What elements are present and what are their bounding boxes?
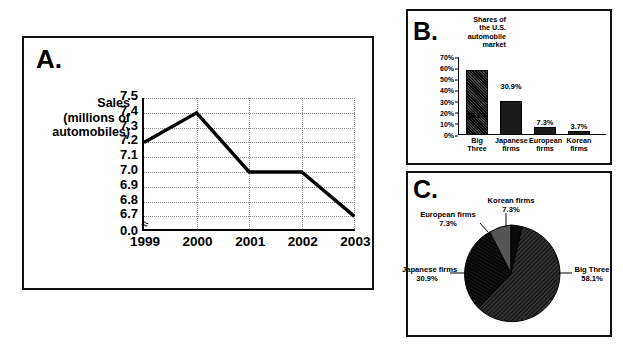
pie-label-pct: 30.9%: [402, 274, 452, 283]
y-tick-label: 7.2: [120, 134, 138, 146]
bar-value-label: 58.1%: [461, 112, 493, 120]
category-label-european-firms: European firms: [529, 137, 561, 154]
y-tick-label: 6.7: [120, 208, 138, 220]
y-tick-label: 6.9: [120, 179, 138, 191]
x-tick-label: 2000: [173, 234, 223, 250]
y-tick-label: 7.0: [120, 164, 138, 176]
bar-japanese-firms[interactable]: [500, 101, 522, 135]
x-tick-label: 2002: [278, 234, 328, 250]
pie-label-name: Japanese firms: [402, 265, 457, 274]
panel-a-data-line: [144, 98, 357, 231]
x-tick-label: 1999: [120, 234, 170, 250]
panel-a-line-chart: A. Sales (millions of automobiles) 7.5 7…: [22, 36, 374, 290]
y-tick-label: 7.4: [120, 105, 138, 117]
y-tick-label: 0%: [444, 132, 454, 139]
panel-b-y-axis: [458, 57, 459, 135]
leader-line-european: [480, 223, 488, 232]
panel-c-pie-chart: C.: [406, 171, 612, 337]
pie-label-european-firms: European firms 7.3%: [416, 210, 480, 228]
bar-value-label: 3.7%: [563, 123, 595, 131]
pie-label-japanese-firms: Japanese firms 30.9%: [402, 265, 452, 283]
panel-a-x-tick-labels: 1999 2000 2001 2002 2003: [120, 234, 378, 252]
pie-label-korean-firms: Korean firms 7.3%: [480, 196, 542, 214]
bar-korean-firms[interactable]: [568, 131, 590, 135]
panel-b-plot-area: 70% 60% 50% 40% 30% 20% 10% 0% 58.1% 30.…: [458, 57, 602, 135]
bar-european-firms[interactable]: [534, 127, 556, 135]
panel-b-title: Shares of the U.S. automobile market: [436, 16, 506, 50]
pie-label-pct: 7.3%: [416, 219, 480, 228]
y-tick-label: 10%: [440, 120, 454, 127]
pie-label-pct: 7.3%: [480, 205, 542, 214]
y-axis-title-line-1: Sales: [28, 96, 130, 111]
category-label-line-2: firms: [536, 144, 554, 153]
y-tick-label: 50%: [440, 76, 454, 83]
y-tick-label: 7.1: [120, 149, 138, 161]
pie-label-name: European firms: [420, 210, 476, 219]
panel-a-y-axis-title: Sales (millions of automobiles): [28, 96, 130, 140]
category-label-line-2: firms: [570, 144, 588, 153]
category-label-korean-firms: Korean firms: [563, 137, 595, 154]
y-tick-label: 70%: [440, 54, 454, 61]
y-tick-label: 30%: [440, 98, 454, 105]
panel-b-title-line-4: market: [436, 41, 506, 49]
panel-b-letter: B.: [413, 19, 438, 44]
x-tick-label: 2003: [330, 234, 380, 250]
category-label-japanese-firms: Japanese firms: [495, 137, 527, 154]
category-label-line-2: firms: [502, 144, 520, 153]
category-label-line-2: Three: [467, 144, 487, 153]
y-tick-label: 7.3: [120, 120, 138, 132]
figure-root: A. Sales (millions of automobiles) 7.5 7…: [0, 0, 623, 346]
y-tick-label: 40%: [440, 87, 454, 94]
pie-label-name: Big Three: [574, 265, 609, 274]
y-tick-label: 20%: [440, 109, 454, 116]
y-tick-label: 60%: [440, 65, 454, 72]
y-axis-title-line-2: (millions of: [28, 111, 130, 126]
pie-label-name: Korean firms: [488, 196, 535, 205]
pie-label-big-three: Big Three 58.1%: [571, 265, 613, 283]
y-tick-label: 7.5: [120, 90, 138, 102]
panel-a-plot-area: [142, 98, 355, 231]
bar-value-label: 7.3%: [529, 119, 561, 127]
pie-label-pct: 58.1%: [571, 274, 613, 283]
bar-value-label: 30.9%: [495, 83, 527, 91]
y-axis-title-line-3: automobiles): [28, 125, 130, 140]
panel-a-letter: A.: [36, 46, 62, 72]
panel-b-bar-chart: B. Shares of the U.S. automobile market …: [406, 9, 612, 165]
bar-big-three[interactable]: [466, 70, 488, 135]
category-label-big-three: Big Three: [461, 137, 493, 154]
y-tick-label: 6.8: [120, 194, 138, 206]
x-tick-label: 2001: [225, 234, 275, 250]
